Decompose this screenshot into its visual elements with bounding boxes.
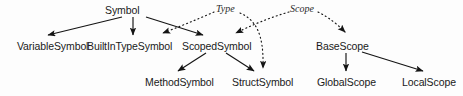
node-global-scope[interactable]: GlobalScope <box>317 76 376 88</box>
edge-scoped-symbol-to-struct-symbol <box>226 53 254 71</box>
node-scoped-symbol[interactable]: ScopedSymbol <box>182 40 251 52</box>
edge-scope-to-base-scope <box>318 12 345 32</box>
node-struct-symbol[interactable]: StructSymbol <box>232 76 293 88</box>
edge-label-type: Type <box>216 3 235 14</box>
edge-scoped-symbol-to-method-symbol <box>178 53 206 71</box>
edge-symbol-to-scoped-symbol <box>146 17 203 35</box>
class-hierarchy-diagram: Symbol VariableSymbol BuiltInTypeSymbol … <box>0 0 463 96</box>
node-method-symbol[interactable]: MethodSymbol <box>145 76 214 88</box>
edge-label-scope: Scope <box>290 3 314 14</box>
node-variable-symbol[interactable]: VariableSymbol <box>17 40 88 52</box>
node-local-scope[interactable]: LocalScope <box>402 76 456 88</box>
node-builtin-type-symbol[interactable]: BuiltInTypeSymbol <box>87 40 172 52</box>
edge-symbol-to-variable-symbol <box>48 17 122 35</box>
node-symbol[interactable]: Symbol <box>105 4 139 16</box>
node-base-scope[interactable]: BaseScope <box>316 40 369 52</box>
edge-base-scope-to-local-scope <box>362 52 423 71</box>
